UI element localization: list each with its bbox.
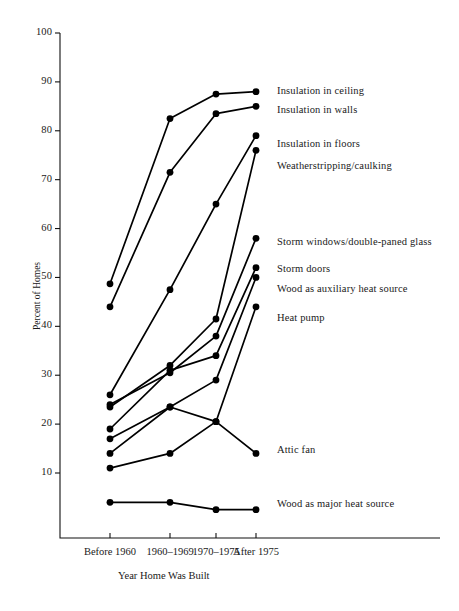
data-point-marker — [167, 115, 174, 122]
data-point-marker — [253, 303, 260, 310]
y-tick-label: 80 — [26, 124, 52, 135]
y-axis-title: Percent of Homes — [32, 262, 42, 330]
series-line — [110, 422, 256, 468]
data-point-marker — [253, 450, 260, 457]
series-line — [110, 307, 256, 454]
series-label: Storm windows/double-paned glass — [277, 236, 432, 247]
data-point-marker — [107, 435, 114, 442]
series-label: Storm doors — [277, 263, 330, 274]
data-point-marker — [167, 404, 174, 411]
y-tick-label: 20 — [26, 417, 52, 428]
series-line — [110, 502, 256, 509]
y-tick-label: 10 — [26, 466, 52, 477]
series-line — [110, 136, 256, 395]
data-point-marker — [213, 377, 220, 384]
series-label: Attic fan — [277, 444, 315, 455]
x-tick-label: After 1975 — [211, 546, 301, 557]
data-point-marker — [213, 352, 220, 359]
series-line — [110, 238, 256, 404]
y-tick-label: 30 — [26, 368, 52, 379]
series-label: Insulation in ceiling — [277, 85, 364, 96]
data-point-marker — [253, 235, 260, 242]
data-point-marker — [107, 391, 114, 398]
series-label: Weatherstripping/caulking — [277, 160, 392, 171]
data-point-marker — [213, 333, 220, 340]
data-point-marker — [213, 110, 220, 117]
data-point-marker — [253, 506, 260, 513]
chart-series-group — [107, 88, 260, 513]
data-point-marker — [253, 88, 260, 95]
series-label: Heat pump — [277, 312, 325, 323]
chart-container: 102030405060708090100 Before 19601960–19… — [0, 0, 459, 611]
data-point-marker — [167, 367, 174, 374]
data-point-marker — [253, 132, 260, 139]
series-label: Insulation in walls — [277, 104, 357, 115]
data-point-marker — [213, 506, 220, 513]
series-line — [110, 106, 256, 306]
data-point-marker — [253, 147, 260, 154]
data-point-marker — [167, 499, 174, 506]
y-tick-label: 60 — [26, 222, 52, 233]
series-label: Wood as major heat source — [277, 498, 394, 509]
data-point-marker — [213, 201, 220, 208]
data-point-marker — [167, 450, 174, 457]
data-point-marker — [253, 264, 260, 271]
data-point-marker — [213, 418, 220, 425]
data-point-marker — [107, 499, 114, 506]
data-point-marker — [107, 303, 114, 310]
data-point-marker — [107, 401, 114, 408]
chart-plot-area — [0, 0, 459, 611]
x-axis-title: Year Home Was Built — [118, 570, 210, 581]
data-point-marker — [253, 274, 260, 281]
y-tick-label: 100 — [26, 26, 52, 37]
y-tick-label: 90 — [26, 75, 52, 86]
data-point-marker — [253, 103, 260, 110]
series-label: Insulation in floors — [277, 138, 360, 149]
series-line — [110, 92, 256, 284]
data-point-marker — [107, 465, 114, 472]
data-point-marker — [107, 450, 114, 457]
series-label: Wood as auxiliary heat source — [277, 283, 408, 294]
data-point-marker — [167, 286, 174, 293]
data-point-marker — [167, 169, 174, 176]
data-point-marker — [213, 91, 220, 98]
y-tick-label: 70 — [26, 173, 52, 184]
data-point-marker — [107, 426, 114, 433]
data-point-marker — [107, 280, 114, 287]
data-point-marker — [213, 316, 220, 323]
